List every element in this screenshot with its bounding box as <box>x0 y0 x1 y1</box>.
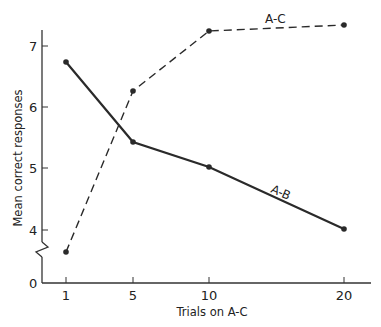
data-point <box>341 22 347 28</box>
y-tick-label: 6 <box>29 100 37 115</box>
data-point <box>206 164 212 170</box>
data-point <box>130 139 136 145</box>
data-point <box>341 226 347 232</box>
series-a-b: A-B <box>63 59 347 232</box>
data-point <box>63 249 69 255</box>
x-tick-label: 1 <box>62 288 70 303</box>
data-point <box>206 28 212 34</box>
x-tick-label: 5 <box>129 288 137 303</box>
line-chart: 7 6 5 4 0 Mean correct responses 1 5 10 … <box>0 0 381 327</box>
y-axis: 7 6 5 4 0 Mean correct responses <box>11 30 48 291</box>
y-tick-label: 5 <box>29 161 37 176</box>
x-axis-title: Trials on A-C <box>176 305 248 319</box>
data-point <box>63 59 69 65</box>
series-a-c: A-C <box>63 12 347 255</box>
y-tick-label: 0 <box>29 276 37 291</box>
y-tick-label: 7 <box>29 39 37 54</box>
series-label-a-b: A-B <box>269 182 293 203</box>
x-tick-label: 20 <box>336 288 353 303</box>
x-tick-label: 10 <box>201 288 218 303</box>
axis-break-icon <box>36 242 48 257</box>
series-label-a-c: A-C <box>265 12 286 26</box>
y-tick-label: 4 <box>29 223 37 238</box>
y-axis-title: Mean correct responses <box>11 89 25 226</box>
x-axis: 1 5 10 20 Trials on A-C <box>42 277 371 319</box>
data-point <box>130 88 136 94</box>
